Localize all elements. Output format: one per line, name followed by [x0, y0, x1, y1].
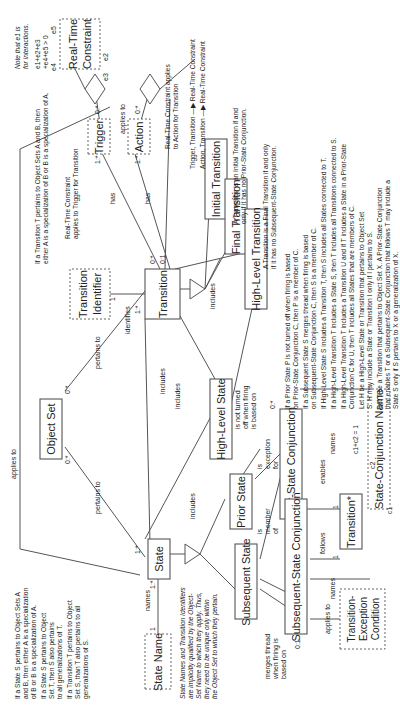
rel-exception-1: is [256, 463, 263, 469]
pc-5: 0:* [64, 385, 71, 394]
srule-4: Set T, then S also pertains [48, 621, 56, 699]
tp-1: If a Transition T pertains to Object Set… [34, 109, 42, 264]
rtc-line1: Real-Time [67, 19, 79, 69]
tec-line2: Exception [358, 597, 369, 641]
pc-11: 1:* [134, 155, 141, 164]
rel-names-tec: names [329, 577, 336, 599]
rel-notoff-1: is not turned [234, 390, 241, 429]
srule-7: Set S, than T also pertains to all [74, 605, 82, 699]
transition-identifier-line2: Identifier [91, 273, 103, 316]
initial-def-1: A Transition is an Initial Transition if… [232, 108, 239, 224]
rel-pertains-transition: pertains to [94, 336, 102, 369]
pc-14: 0:* [269, 400, 276, 409]
object-prior-state[interactable]: Prior State [230, 474, 252, 529]
rel-includes-4: includes [209, 283, 216, 309]
object-high-level-state[interactable]: High-Level State [210, 378, 232, 459]
rel-applies-to-rtc: applies to [119, 104, 127, 134]
legend-trigger: Trigger, Transition —▶ Real-Time Constra… [189, 39, 197, 169]
pc-12: 0:* [94, 105, 101, 114]
object-state-name[interactable]: State Name [145, 633, 171, 691]
c-sum-label: c1+c2 = 1 [352, 425, 359, 454]
pc-e4: e4 [50, 63, 57, 71]
object-transition[interactable]: Transition [145, 269, 180, 319]
rel-applies-tec: applies to [324, 604, 332, 634]
rel-includes-3: includes [189, 493, 196, 519]
rel-merges-3: based on [280, 650, 287, 679]
srule-6: If a Transition T pertains to Object [66, 600, 74, 699]
object-initial-transition[interactable]: Initial Transition [205, 139, 227, 219]
initial-def-2: only if it has no Prior-State Conjunctio… [240, 108, 248, 224]
object-subsequent-state[interactable]: Subsequent State [235, 538, 257, 625]
trigger-label: Trigger [93, 119, 105, 154]
high-level-transition-label: High-Level Transition [250, 207, 262, 310]
rel-member-1: is [256, 528, 263, 534]
rel-exception-2: exception [264, 439, 272, 469]
object-transition-star[interactable]: Transition* [340, 494, 362, 549]
high-level-state-label: High-Level State [215, 378, 227, 459]
initial-transition-label: Initial Transition [210, 141, 222, 217]
pc-9: 0:1 [159, 254, 166, 264]
pc-6: 1:* [134, 305, 141, 314]
pc-17: 1 [332, 555, 339, 559]
rule-8: Let H be a High-Level State or Transitio… [358, 212, 366, 409]
nnote-3: they need to be unique only within [203, 599, 211, 699]
pc-8: 0:* [149, 255, 156, 264]
object-object-set[interactable]: Object Set [40, 399, 62, 459]
rel-member-3: of [272, 528, 279, 534]
pc-15: 0:1 [294, 639, 301, 649]
rel-includes-2: includes [174, 383, 181, 409]
pc-13: 0:* [134, 105, 141, 114]
tec-line3: Condition [370, 598, 381, 640]
note-esum-2: +e4+e5 > 0 [42, 35, 49, 69]
rel-merges-1: merges thread [264, 634, 272, 679]
pc-c1: c1 [386, 507, 393, 515]
rule-12: State S only if S pertains to X or a gen… [392, 252, 400, 409]
srule-8: generalizations of S. [82, 639, 90, 699]
nnote-0: State Names and Transition Identifiers [179, 587, 186, 699]
object-trigger[interactable]: Trigger [88, 119, 110, 154]
pc-3: 1:* [134, 545, 141, 554]
rule-1: on Prior-State Conjunction C, then P is … [292, 248, 300, 409]
rel-member-2: member [264, 508, 271, 534]
note-rtc-action-1: Real-Time Constraint applies [164, 64, 172, 149]
object-real-time-constraint[interactable]: Real-Time Constraint [60, 19, 100, 69]
object-state[interactable]: State [148, 539, 170, 579]
transition-label: Transition [157, 270, 169, 318]
rel-merges-2: when firing is [272, 638, 280, 680]
transition-star-label: Transition* [345, 495, 357, 548]
rel-exception-3: for [272, 460, 279, 469]
diagram-canvas: State State Name Object Set Transition T… [0, 0, 400, 709]
srule-3: If a State S pertains to Object [40, 613, 48, 699]
state-label: State [153, 546, 165, 572]
rel-applies-to: applies to [10, 449, 18, 479]
rule-3: on Subsequent-State Conjunction C, then … [310, 227, 318, 409]
nnote-1: are implicitly qualified by the Object- [187, 593, 195, 699]
rule-2: If a Subsequent State S merges thread wh… [302, 235, 310, 409]
object-set-label: Object Set [45, 403, 57, 454]
transition-identifier-line1: Transition [77, 270, 89, 318]
object-subsequent-state-conjunction[interactable]: Subsequent-State Conjunction [285, 492, 307, 641]
pc-c2: c2 [369, 462, 376, 470]
object-action[interactable]: Action [128, 119, 150, 154]
srule-1: and B, then either A is a specialization [22, 588, 30, 699]
pc-10: 1:* [94, 155, 101, 164]
note-rtc-trigger-2: applies to Trigger for Transition [72, 148, 80, 239]
rule-0: If a Prior State P is not turned off whe… [284, 253, 292, 409]
note-esum-1: e1+e2+e3 [34, 39, 41, 69]
rel-names-state: names [144, 589, 151, 611]
rel-includes-1: includes [159, 368, 166, 394]
rule-11: that enables T or a Subsequent-State Con… [384, 180, 392, 409]
srule-5: to all generalizations of T. [56, 625, 64, 699]
rtc-line2: Constraint [81, 19, 93, 69]
rule-6: If a High-Level Transition T includes a … [340, 143, 348, 409]
pc-e5: e5 [50, 26, 57, 34]
rotated-diagram: State State Name Object Set Transition T… [0, 0, 400, 709]
pc-e2: e2 [102, 53, 109, 61]
object-transition-exception-condition[interactable]: Transition- Exception Condition [340, 589, 385, 649]
object-transition-identifier[interactable]: Transition Identifier [70, 269, 110, 319]
rel-identifies: identifies [124, 306, 131, 334]
note-rtc-trigger-1: Real-Time Constraint [64, 177, 71, 239]
subsequent-state-conjunction-label: Subsequent-State Conjunction [290, 492, 302, 641]
srule-0: If a State S pertains to Object Sets A [14, 591, 22, 699]
rel-notoff-3: is based on [250, 393, 257, 429]
